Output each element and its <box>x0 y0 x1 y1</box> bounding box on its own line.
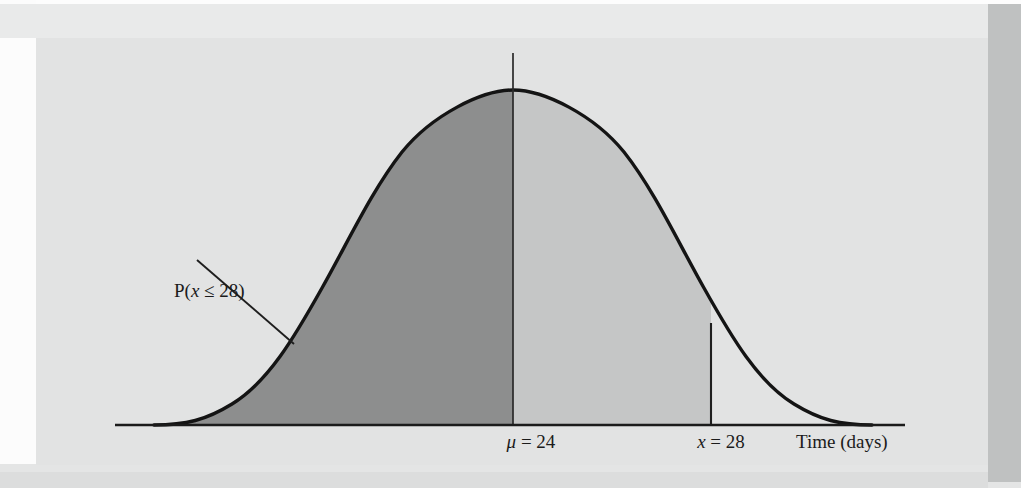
page-margin-left <box>0 0 36 464</box>
axis-title-text: Time (days) <box>796 431 888 452</box>
chart-panel: P(x ≤ 28) μ = 24 x = 28 Time (days) <box>36 38 988 465</box>
callout-leader-line <box>197 260 294 344</box>
mean-axis-label-text: μ = 24 <box>507 431 556 452</box>
scan-band-bottom <box>0 464 1021 488</box>
scan-band-bottom-inner <box>0 472 988 488</box>
x-marker-axis-label: x = 28 <box>666 432 776 451</box>
x-marker-axis-label-text: x = 28 <box>697 431 745 452</box>
probability-callout-label: P(x ≤ 28) <box>174 281 245 300</box>
axis-title-label: Time (days) <box>796 432 956 451</box>
mean-axis-label: μ = 24 <box>476 432 586 451</box>
shaded-area-left-tail <box>154 38 513 425</box>
probability-callout-text: P(x ≤ 28) <box>174 280 245 301</box>
normal-curve-plot <box>36 38 988 465</box>
scan-band-right <box>988 4 1021 482</box>
figure-root: P(x ≤ 28) μ = 24 x = 28 Time (days) <box>0 0 1021 488</box>
scan-band-top <box>0 4 1021 38</box>
